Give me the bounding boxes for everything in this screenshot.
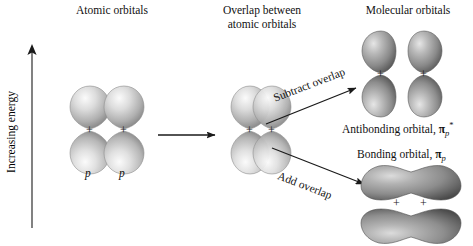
header-atomic-orbitals: Atomic orbitals bbox=[62, 4, 162, 17]
node-mark-overlap-left: + bbox=[246, 124, 253, 136]
bonding-subscript: p bbox=[442, 153, 446, 163]
label-p-right: p bbox=[119, 167, 125, 180]
node-mark-atomic-right: + bbox=[120, 124, 127, 136]
node-mark-antibonding-right: + bbox=[420, 68, 427, 80]
node-mark-overlap-right: + bbox=[268, 124, 275, 136]
label-antibonding-orbital: Antibonding orbital, πp* bbox=[342, 119, 454, 140]
figure-canvas: + + + + + + + + Increasing energy Atomic… bbox=[0, 0, 473, 246]
antibonding-star: * bbox=[449, 120, 453, 130]
bonding-orbital-top-lobe bbox=[361, 166, 461, 200]
node-mark-antibonding-left: + bbox=[377, 68, 384, 80]
header-overlap-line1: Overlap between bbox=[208, 4, 316, 17]
header-overlap-line2: atomic orbitals bbox=[208, 18, 316, 31]
node-mark-bonding-left: + bbox=[393, 197, 400, 209]
label-p-left: p bbox=[85, 167, 91, 180]
node-mark-atomic-left: + bbox=[86, 124, 93, 136]
bonding-orbital-bottom-lobe bbox=[361, 209, 461, 243]
node-mark-bonding-right: + bbox=[420, 197, 427, 209]
header-molecular-orbitals: Molecular orbitals bbox=[350, 4, 466, 17]
bonding-text: Bonding orbital, bbox=[357, 148, 435, 160]
energy-axis: Increasing energy bbox=[0, 38, 21, 228]
antibonding-text: Antibonding orbital, bbox=[342, 123, 439, 135]
energy-axis-label: Increasing energy bbox=[5, 40, 17, 224]
label-bonding-orbital: Bonding orbital, πp bbox=[357, 148, 446, 165]
